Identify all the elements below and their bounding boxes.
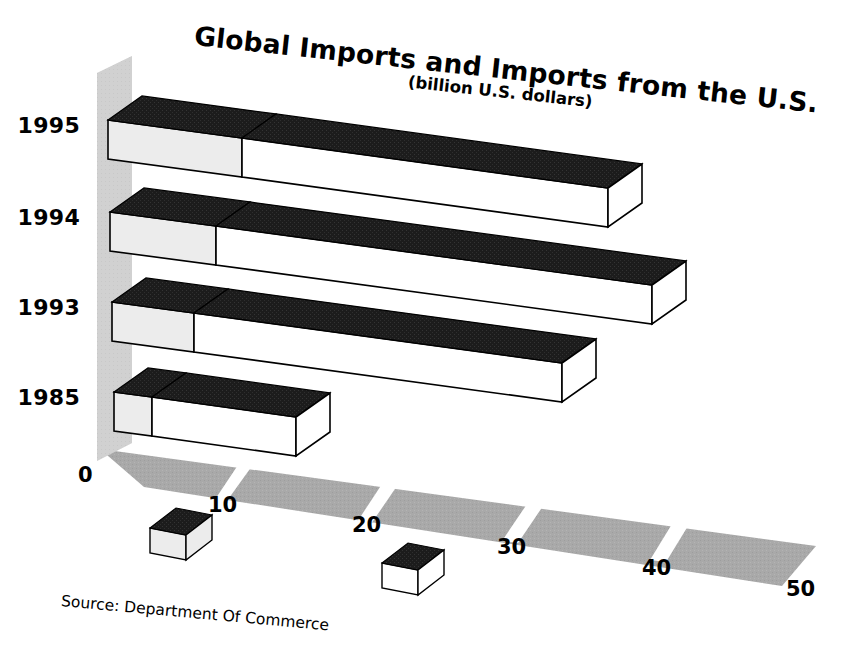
- axis-label-category-1995: 1995: [0, 113, 80, 138]
- axis-label-category-1994: 1994: [0, 205, 80, 230]
- axis-tick-50: 50: [786, 577, 815, 601]
- axis-label-category-1985: 1985: [0, 385, 80, 410]
- axis-tick-10: 10: [208, 493, 237, 517]
- legend-swatch-other-global-imports: [382, 543, 444, 595]
- legend-swatch-from-us-only: [150, 508, 212, 560]
- axis-tick-20: 20: [352, 513, 381, 537]
- axis-tick-40: 40: [642, 556, 671, 580]
- chart-canvas: Global Imports and Imports from the U.S.…: [0, 0, 847, 658]
- axis-tick-30: 30: [497, 535, 526, 559]
- axis-label-category-1993: 1993: [0, 295, 80, 320]
- bar-group-1985: [114, 368, 330, 456]
- axis-tick-0: 0: [78, 463, 93, 487]
